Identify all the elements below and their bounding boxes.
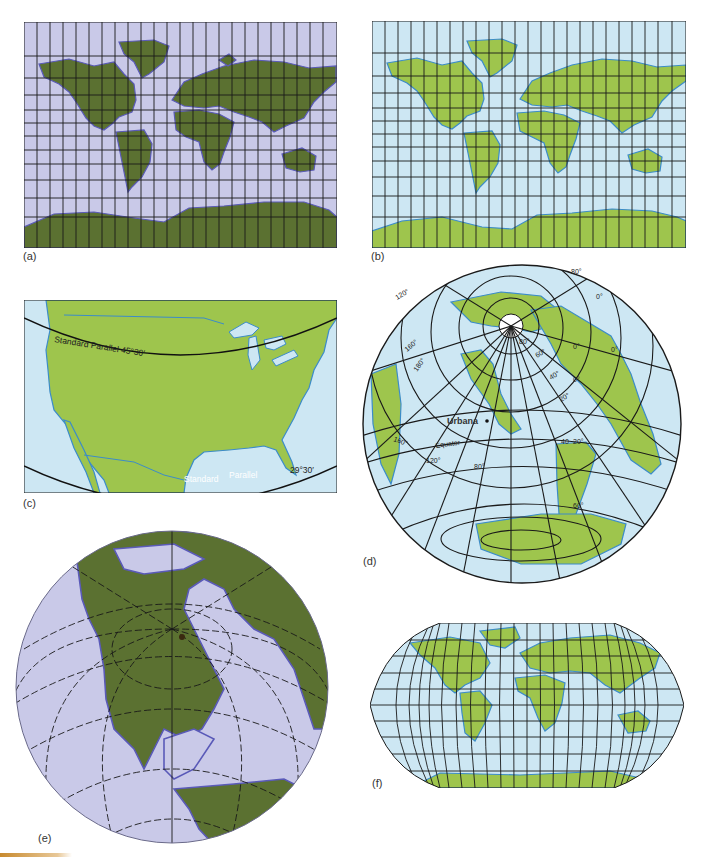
north-pole-marker bbox=[179, 634, 185, 640]
lat-label-80-inner: 80° bbox=[519, 338, 530, 345]
lon-label-0-c: 0° bbox=[611, 346, 618, 353]
lat-label-20-south: 20° bbox=[573, 438, 584, 445]
map-d-svg: Urbana Equator 120° 160° 180° 160° 120° … bbox=[361, 264, 683, 586]
lon-label-120-upper: 120° bbox=[394, 287, 410, 300]
panel-a-mercator-map bbox=[24, 22, 337, 248]
standard-parallel-south-degree: 29°30′ bbox=[290, 465, 314, 475]
panel-label-f: (f) bbox=[372, 777, 382, 789]
urbana-label: Urbana bbox=[447, 416, 479, 426]
standard-parallel-south-label-b: Parallel bbox=[229, 470, 257, 480]
lat-label-60-south: 60° bbox=[573, 502, 584, 509]
lon-label-0-d: 0° bbox=[573, 376, 580, 383]
map-c-svg: Standard Parallel 45°30′ Standard Parall… bbox=[24, 300, 337, 493]
panel-label-e: (e) bbox=[38, 832, 51, 844]
lon-label-120-lower: 120° bbox=[426, 457, 441, 464]
panel-f-robinson-map bbox=[370, 623, 684, 788]
map-b-svg bbox=[372, 21, 686, 248]
map-f-svg bbox=[370, 623, 684, 788]
lat-label-80-top: 80° bbox=[571, 268, 582, 275]
accent-bar bbox=[0, 853, 72, 857]
lat-label-40-south: 40 bbox=[561, 438, 569, 445]
map-a-svg bbox=[24, 22, 337, 248]
standard-parallel-south-label-a: Standard bbox=[184, 474, 219, 484]
lon-label-0-b: 0° bbox=[573, 343, 580, 350]
panel-label-c: (c) bbox=[23, 497, 36, 509]
panel-label-b: (b) bbox=[371, 250, 384, 262]
map-e-svg bbox=[14, 529, 330, 845]
panel-label-a: (a) bbox=[23, 250, 36, 262]
panel-c-conic-map: Standard Parallel 45°30′ Standard Parall… bbox=[24, 300, 337, 493]
panel-d-azimuthal-map: Urbana Equator 120° 160° 180° 160° 120° … bbox=[361, 264, 683, 586]
urbana-marker bbox=[485, 419, 489, 423]
lon-label-0-a: 0° bbox=[596, 293, 603, 300]
panel-label-d: (d) bbox=[363, 555, 376, 567]
lon-label-80: 80° bbox=[474, 463, 485, 470]
panel-b-cylindrical-map bbox=[372, 21, 686, 248]
panel-e-orthographic-globe bbox=[14, 529, 330, 845]
